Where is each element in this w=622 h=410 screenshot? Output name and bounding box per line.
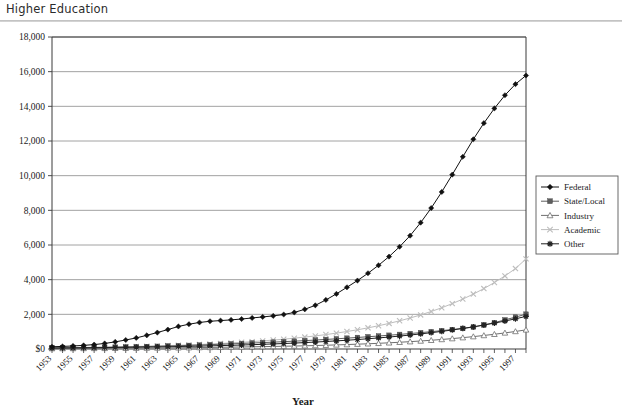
marker-asterisk	[302, 340, 308, 346]
xtick-label: 1979	[307, 353, 327, 373]
marker-asterisk	[123, 344, 129, 350]
marker-diamond	[144, 333, 149, 338]
xtick-label: 1975	[265, 353, 285, 373]
marker-diamond	[207, 319, 212, 324]
marker-square	[548, 199, 553, 204]
marker-asterisk	[165, 344, 171, 350]
marker-asterisk	[260, 341, 266, 347]
marker-asterisk	[323, 339, 329, 345]
xtick-label: 1973	[244, 353, 264, 373]
marker-asterisk	[428, 330, 434, 336]
marker-x	[513, 266, 518, 271]
marker-diamond	[155, 330, 160, 335]
ytick-label: 2,000	[24, 310, 46, 320]
marker-asterisk	[449, 327, 455, 333]
xtick-label: 1983	[350, 353, 370, 373]
marker-asterisk	[407, 332, 413, 338]
series-state-local	[50, 312, 529, 350]
marker-x	[460, 296, 465, 301]
page-title: Higher Education	[6, 2, 108, 16]
marker-x	[502, 273, 507, 278]
marker-asterisk	[207, 343, 213, 349]
series-other	[49, 313, 529, 350]
line-chart: $02,0004,0006,0008,00010,00012,00014,000…	[0, 24, 622, 410]
xtick-label: 1989	[413, 353, 433, 373]
marker-diamond	[323, 297, 328, 302]
marker-asterisk	[186, 343, 192, 349]
marker-x	[439, 305, 444, 310]
marker-diamond	[239, 316, 244, 321]
xtick-label: 1965	[160, 353, 180, 373]
xtick-label: 1993	[455, 353, 475, 373]
xtick-label: 1963	[139, 353, 159, 373]
marker-asterisk	[249, 342, 255, 348]
marker-x	[418, 312, 423, 317]
xtick-label: 1985	[371, 353, 391, 373]
marker-asterisk	[239, 342, 245, 348]
ytick-label: 18,000	[19, 32, 45, 42]
marker-x	[481, 286, 486, 291]
marker-asterisk	[344, 337, 350, 343]
x-axis-title: Year	[292, 395, 314, 407]
marker-asterisk	[365, 336, 371, 342]
ytick-label: 6,000	[24, 240, 46, 250]
xtick-label: 1987	[392, 353, 412, 373]
marker-x	[429, 309, 434, 314]
marker-diamond	[450, 172, 455, 177]
series-federal	[49, 73, 528, 349]
marker-asterisk	[112, 345, 118, 351]
marker-asterisk	[281, 341, 287, 347]
marker-diamond	[281, 312, 286, 317]
marker-triangle	[523, 327, 529, 332]
marker-diamond	[228, 317, 233, 322]
marker-asterisk	[397, 333, 403, 339]
ytick-label: 4,000	[24, 275, 46, 285]
marker-asterisk	[547, 241, 553, 247]
xtick-label: 1953	[34, 353, 54, 373]
marker-asterisk	[197, 343, 203, 349]
marker-x	[450, 301, 455, 306]
ytick-label: 16,000	[19, 67, 45, 77]
marker-diamond	[113, 339, 118, 344]
marker-asterisk	[492, 320, 498, 326]
marker-asterisk	[460, 326, 466, 332]
marker-diamond	[439, 189, 444, 194]
marker-diamond	[165, 327, 170, 332]
legend-label: Other	[564, 239, 585, 249]
marker-asterisk	[312, 339, 318, 345]
marker-diamond	[302, 307, 307, 312]
marker-diamond	[313, 303, 318, 308]
marker-diamond	[218, 318, 223, 323]
ytick-label: $0	[36, 344, 46, 354]
series-line	[52, 316, 526, 348]
marker-diamond	[197, 320, 202, 325]
marker-asterisk	[133, 344, 139, 350]
ytick-label: 12,000	[19, 136, 45, 146]
xtick-label: 1997	[497, 353, 517, 373]
marker-asterisk	[154, 344, 160, 350]
marker-x	[492, 280, 497, 285]
ytick-label: 10,000	[19, 171, 45, 181]
marker-asterisk	[470, 324, 476, 330]
marker-asterisk	[334, 338, 340, 344]
xtick-label: 1961	[118, 353, 138, 373]
xtick-label: 1977	[286, 353, 306, 373]
xtick-label: 1971	[223, 353, 243, 373]
chart-legend: FederalState/LocalIndustryAcademicOther	[536, 176, 618, 254]
xtick-label: 1991	[434, 353, 454, 373]
marker-asterisk	[291, 340, 297, 346]
marker-asterisk	[439, 328, 445, 334]
ytick-label: 14,000	[19, 102, 45, 112]
marker-asterisk	[418, 331, 424, 337]
series-line	[52, 330, 526, 349]
legend-label: Industry	[564, 211, 594, 221]
series-academic	[49, 256, 528, 350]
marker-asterisk	[523, 313, 529, 319]
chart-figure: $02,0004,0006,0008,00010,00012,00014,000…	[0, 24, 622, 410]
xtick-label: 1955	[55, 353, 75, 373]
marker-asterisk	[355, 337, 361, 343]
ytick-label: 8,000	[24, 206, 46, 216]
marker-diamond	[123, 337, 128, 342]
xtick-label: 1957	[76, 353, 96, 373]
header-divider	[0, 20, 622, 22]
